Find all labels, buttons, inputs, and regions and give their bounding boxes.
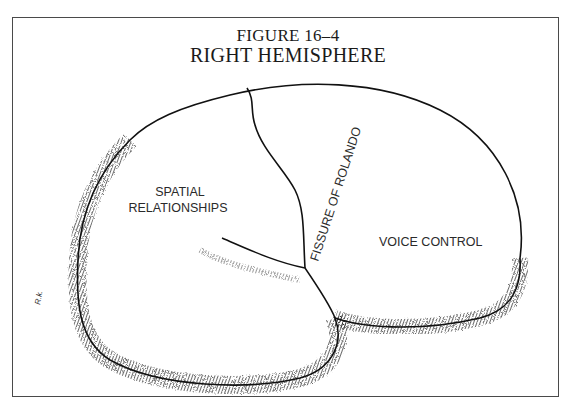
label-spatial-line1: SPATIAL [155,185,205,199]
artist-signature: R.k. [33,290,44,306]
label-fissure-of-rolando: FISSURE OF ROLANDO [308,125,365,263]
label-spatial-line2: RELATIONSHIPS [128,201,227,215]
label-voice-control: VOICE CONTROL [379,235,483,249]
brain-diagram: R.k. SPATIAL RELATIONSHIPS FISSURE OF RO… [0,0,576,409]
fissure-of-rolando-line [247,88,305,268]
